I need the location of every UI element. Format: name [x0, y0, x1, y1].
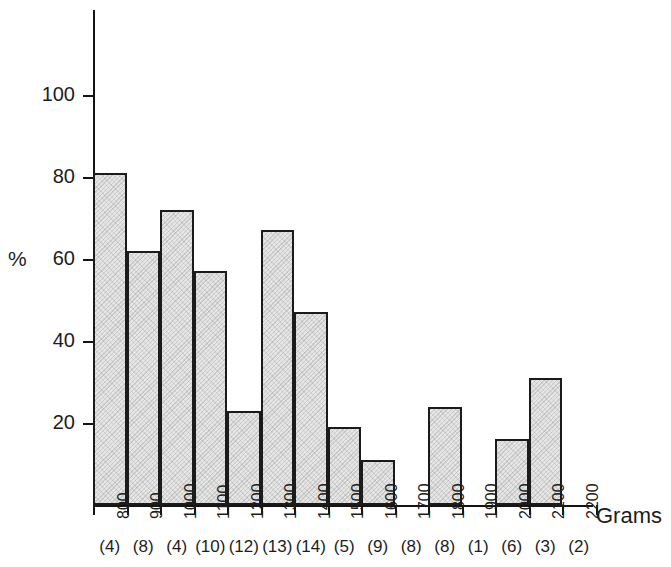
x-axis-category-label: 2100: [551, 483, 567, 519]
bar-chart: 20406080100 800(4)900(8)1000(4)1100(10)1…: [0, 0, 671, 567]
y-axis-tick: 20: [0, 423, 94, 425]
bar: [261, 230, 295, 505]
x-axis-title: Grams: [596, 503, 662, 529]
bar: [93, 173, 127, 505]
x-axis-category-label: 1000: [183, 483, 199, 519]
y-axis-title: %: [8, 247, 27, 271]
x-axis-category-label: 1500: [350, 483, 366, 519]
x-axis-category-label: 1100: [216, 485, 232, 519]
y-axis-tick: 100: [0, 95, 94, 97]
bar: [127, 251, 161, 505]
bar: [160, 210, 194, 505]
x-axis-category-label: 1700: [417, 483, 433, 519]
y-axis-tick-label: 100: [29, 84, 75, 104]
x-axis-category-count: (2): [556, 538, 602, 555]
x-axis-category-label: 1900: [484, 483, 500, 519]
x-axis-category-label: 1800: [451, 483, 467, 519]
x-axis-category-label: 1600: [384, 483, 400, 519]
x-axis-category-label: 2000: [518, 483, 534, 519]
plot-area: 20406080100 800(4)900(8)1000(4)1100(10)1…: [0, 0, 671, 567]
x-axis-tick-mark: [93, 505, 95, 515]
y-axis-tick-mark: [83, 95, 94, 97]
y-axis-tick: 80: [0, 177, 94, 179]
x-axis-category-label: 900: [149, 492, 165, 519]
y-axis-tick-label: 60: [29, 248, 75, 268]
y-axis-tick: 40: [0, 341, 94, 343]
x-axis-category-label: 800: [116, 492, 132, 519]
bar: [194, 271, 228, 505]
x-axis-category-label: 1400: [317, 483, 333, 519]
y-axis-tick-label: 20: [29, 412, 75, 432]
x-axis-category-label: 1200: [250, 483, 266, 519]
y-axis-tick-label: 40: [29, 330, 75, 350]
x-axis-category-label: 1300: [283, 483, 299, 519]
y-axis-tick-label: 80: [29, 166, 75, 186]
bar: [294, 312, 328, 505]
